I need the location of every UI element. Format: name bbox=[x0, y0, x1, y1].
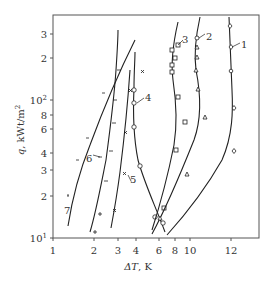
y-tick-label: 6 bbox=[41, 124, 47, 135]
x-tick-label: 3 bbox=[115, 245, 121, 256]
curve-1-line bbox=[167, 17, 232, 235]
y-tick-label: 2 bbox=[41, 191, 47, 202]
x-tick-label: 6 bbox=[156, 245, 162, 256]
curve-6-line bbox=[90, 30, 118, 232]
curve-5-label: 5 bbox=[130, 174, 136, 185]
y-tick-label: 8 bbox=[41, 110, 47, 121]
x-tick-label: 8 bbox=[172, 245, 178, 256]
curve-7-label: 7 bbox=[64, 205, 70, 216]
curve-4-label: 4 bbox=[145, 92, 151, 103]
y-tick-label: 4 bbox=[41, 148, 47, 159]
x-tick-label: 10 bbox=[184, 245, 197, 256]
curve-1-label: 1 bbox=[241, 39, 247, 50]
curve-3-label: 3 bbox=[182, 34, 188, 45]
series-1: 1 bbox=[167, 17, 247, 235]
series-5: 5 bbox=[111, 70, 144, 228]
x-tick-label: 2 bbox=[91, 245, 97, 256]
x-axis-title: ΔT, K bbox=[123, 261, 152, 272]
series-4: 4 bbox=[132, 52, 165, 232]
curve-6-label: 6 bbox=[86, 153, 92, 164]
y-tick-label: 3 bbox=[41, 29, 47, 40]
x-tick-label: 4 bbox=[133, 245, 139, 256]
y-axis-title: q, kWt/m2 bbox=[14, 105, 26, 155]
x-axis: 1 2 3 4 6 8 10 12 ΔT, K bbox=[50, 238, 238, 272]
plot-frame bbox=[53, 15, 259, 238]
y-tick-label: 3 bbox=[41, 165, 47, 176]
chart: 1 2 3 4 6 8 10 12 ΔT, K 101 2 3 4 6 8 10… bbox=[0, 0, 274, 286]
y-tick-label: 2 bbox=[41, 53, 47, 64]
x-tick-label: 12 bbox=[225, 245, 238, 256]
y-tick-label: 101 bbox=[30, 232, 47, 244]
y-axis: 101 2 3 4 6 8 102 2 3 q, kWt/m2 bbox=[14, 29, 53, 244]
curve-4-line bbox=[134, 52, 165, 232]
series-3: 3 bbox=[152, 22, 188, 230]
y-tick-label: 102 bbox=[30, 94, 47, 106]
curve-2-label: 2 bbox=[206, 31, 212, 42]
x-tick-label: 1 bbox=[50, 245, 56, 256]
curve-3-line bbox=[152, 22, 178, 230]
